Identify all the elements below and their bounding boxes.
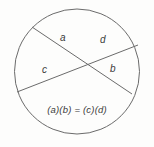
chord-product-equation: (a)(b) = (c)(d) xyxy=(0,104,154,115)
segment-label-d: d xyxy=(100,35,106,45)
chord-a-b-line xyxy=(32,27,132,94)
segment-label-b: b xyxy=(110,64,116,74)
diagram-canvas: a d c b (a)(b) = (c)(d) xyxy=(0,0,154,147)
segment-label-a: a xyxy=(60,33,66,43)
chord-c-d-line xyxy=(17,45,138,92)
circle-chords-figure xyxy=(0,0,154,147)
segment-label-c: c xyxy=(42,65,47,75)
